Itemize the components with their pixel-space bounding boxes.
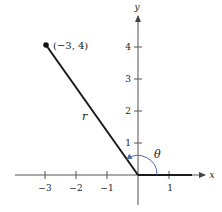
point-marker [43,42,49,48]
y-tick-label: 3 [125,74,131,84]
terminal-side-r [46,45,138,175]
polar-diagram: −3 −2 −1 1 x 1 2 3 4 y (−3, 4) r θ [0,0,222,212]
y-tick-label: 1 [125,138,131,148]
x-tick-label: −3 [38,183,52,193]
x-tick-label: −1 [100,183,113,193]
x-axis-label: x [209,170,214,180]
x-tick-label: 1 [167,183,173,193]
y-axis-label: y [133,2,140,12]
y-tick-label: 4 [125,42,131,52]
y-axis [134,16,142,205]
angle-label: θ [154,148,161,161]
radius-label: r [82,110,88,123]
point-label: (−3, 4) [53,40,88,51]
y-tick-label: 2 [125,106,131,116]
x-tick-label: −2 [69,183,82,193]
